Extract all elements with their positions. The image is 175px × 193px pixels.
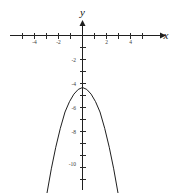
x-tick-label-minus4: -4 bbox=[32, 39, 37, 45]
x-tick-label-minus2: -2 bbox=[56, 39, 61, 45]
coordinate-plane-figure: -4 -2 2 4 -2 -4 -6 -8 -10 x y bbox=[0, 0, 175, 193]
y-tick-label-minus6: -6 bbox=[71, 105, 76, 111]
y-tick-label-minus4: -4 bbox=[71, 81, 76, 87]
x-tick-label-2: 2 bbox=[105, 39, 108, 45]
y-tick-label-minus10: -10 bbox=[69, 161, 77, 167]
y-axis-label: y bbox=[79, 6, 85, 18]
y-tick-label-minus2: -2 bbox=[71, 57, 76, 63]
y-tick-label-minus8: -8 bbox=[71, 129, 76, 135]
x-tick-label-4: 4 bbox=[129, 39, 132, 45]
figure-background bbox=[0, 0, 175, 193]
x-axis-label: x bbox=[163, 29, 169, 41]
